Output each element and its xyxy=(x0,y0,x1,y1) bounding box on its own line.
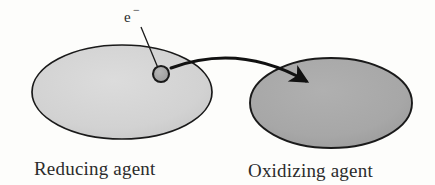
electron-label: e xyxy=(124,9,131,25)
oxidizing-agent-caption: Oxidizing agent xyxy=(248,160,373,181)
reducing-agent-ellipse xyxy=(32,45,212,139)
reducing-agent-caption: Reducing agent xyxy=(34,158,156,179)
redox-electron-transfer-diagram: e − Reducing agent Oxidizing agent xyxy=(0,0,435,185)
electron-circle xyxy=(153,66,169,82)
electron-charge-symbol: − xyxy=(133,3,140,17)
diagram-canvas: e − Reducing agent Oxidizing agent xyxy=(0,0,435,185)
oxidizing-agent-ellipse xyxy=(250,58,412,148)
